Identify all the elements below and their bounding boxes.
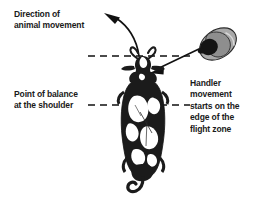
diagram-canvas: Direction of animal movement Point of ba… [0, 0, 263, 205]
label-point-of-balance: Point of balance at the shoulder [14, 89, 78, 112]
animal-movement-arrow [104, 13, 139, 56]
cow-figure [118, 47, 168, 191]
label-handler-movement: Handler movement starts on the edge of t… [190, 78, 239, 135]
handler-figure [194, 21, 243, 67]
handler-movement-arrow [149, 48, 201, 75]
label-direction-of-animal-movement: Direction of animal movement [14, 9, 84, 32]
